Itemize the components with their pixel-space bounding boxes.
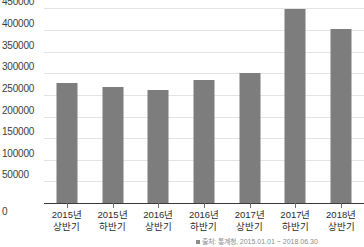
- bar-slot: [273, 0, 319, 203]
- y-axis-tick-label: 400000: [2, 19, 34, 29]
- source-note: 출처: 통계청, 2015.01.01 ~ 2018.06.30: [196, 238, 318, 247]
- x-axis-category-label: 2015년상반기: [44, 209, 90, 233]
- bar: [239, 73, 260, 203]
- bar-slot: [135, 0, 181, 203]
- category-label-line: 2015년: [44, 209, 90, 221]
- category-label-line: 상반기: [135, 221, 181, 233]
- bullet-icon: [196, 240, 200, 244]
- source-note-text: 출처: 통계청, 2015.01.01 ~ 2018.06.30: [202, 238, 318, 245]
- category-label-line: 상반기: [318, 221, 364, 233]
- y-axis-tick-label: 250000: [2, 84, 34, 94]
- x-axis-tick: [295, 203, 296, 208]
- x-axis-category-labels: 2015년상반기2015년하반기2016년상반기2016년하반기2017년상반기…: [44, 209, 364, 237]
- category-label-line: 하반기: [90, 221, 136, 233]
- bar-slot: [44, 0, 90, 203]
- bar: [285, 9, 306, 203]
- bar: [102, 87, 123, 203]
- bar: [193, 80, 214, 203]
- x-axis-tick: [250, 203, 251, 208]
- bar: [331, 29, 352, 203]
- y-axis-tick-label: 450000: [2, 0, 34, 7]
- x-axis-ticks: [44, 203, 364, 208]
- x-axis-tick: [158, 203, 159, 208]
- x-axis-tick: [113, 203, 114, 208]
- x-axis-tick: [341, 203, 342, 208]
- bar-slot: [181, 0, 227, 203]
- y-axis-tick-label: 150000: [2, 127, 34, 137]
- x-axis-tick: [204, 203, 205, 208]
- x-axis-category-label: 2016년하반기: [181, 209, 227, 233]
- x-axis-category-label: 2015년하반기: [90, 209, 136, 233]
- category-label-line: 상반기: [227, 221, 273, 233]
- bar: [56, 83, 77, 203]
- bar-chart: 5000010000015000020000025000030000035000…: [0, 0, 364, 247]
- x-axis-category-label: 2017년하반기: [273, 209, 319, 233]
- bar-series: [44, 0, 364, 203]
- category-label-line: 2015년: [90, 209, 136, 221]
- category-label-line: 2017년: [227, 209, 273, 221]
- y-axis-tick-label: 50000: [2, 170, 29, 180]
- category-label-line: 상반기: [44, 221, 90, 233]
- bar: [148, 90, 169, 203]
- y-axis-tick-label: 350000: [2, 41, 34, 51]
- x-axis-tick: [67, 203, 68, 208]
- bar-slot: [90, 0, 136, 203]
- y-axis-zero-label: 0: [2, 207, 8, 217]
- y-axis-tick-label: 300000: [2, 62, 34, 72]
- category-label-line: 하반기: [273, 221, 319, 233]
- x-axis-category-label: 2018년상반기: [318, 209, 364, 233]
- x-axis-category-label: 2016년상반기: [135, 209, 181, 233]
- category-label-line: 2016년: [135, 209, 181, 221]
- bar-slot: [227, 0, 273, 203]
- category-label-line: 2016년: [181, 209, 227, 221]
- category-label-line: 2018년: [318, 209, 364, 221]
- y-axis-tick-label: 100000: [2, 149, 34, 159]
- category-label-line: 하반기: [181, 221, 227, 233]
- y-axis-tick-label: 200000: [2, 106, 34, 116]
- category-label-line: 2017년: [273, 209, 319, 221]
- bar-slot: [318, 0, 364, 203]
- x-axis-category-label: 2017년상반기: [227, 209, 273, 233]
